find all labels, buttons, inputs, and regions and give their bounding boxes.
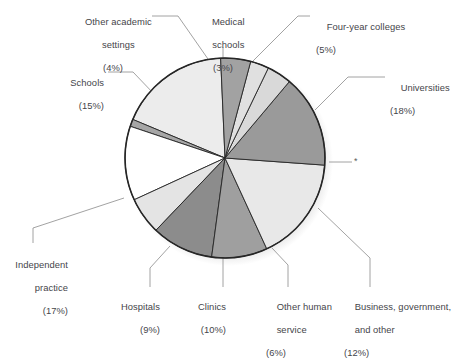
pie-label-four-year-colleges: Four-year colleges (5%)	[316, 10, 446, 78]
pie-label-business-government-other-line2: and other	[355, 324, 395, 335]
pie-label-other-academic-settings-line2: settings	[102, 39, 135, 50]
pie-label-clinics-line1: Clinics	[198, 301, 226, 312]
pie-label-independent-practice-line1: Independent	[15, 259, 68, 270]
pie-label-other-academic-settings-line1: Other academic	[85, 16, 152, 27]
pie-label-hospitals: Hospitals (9%)	[104, 290, 160, 358]
pie-label-schools: Schools (15%)	[24, 66, 104, 134]
pie-label-medical-schools-pct: (3%)	[185, 62, 261, 73]
pie-label-independent-practice-line2: practice	[35, 282, 68, 293]
pie-label-schools-line1: Schools	[70, 77, 104, 88]
pie-label-other-human-service-line1: Other human	[277, 301, 332, 312]
leader-line-business-government-other	[318, 208, 370, 287]
pie-label-four-year-colleges-line1: Four-year colleges	[327, 21, 406, 32]
pie-label-other-human-service: Other human service (6%)	[266, 290, 340, 362]
leader-line-hospitals	[150, 246, 170, 287]
pie-label-clinics-pct: (10%)	[178, 324, 226, 335]
pie-label-universities: Universities (18%)	[390, 71, 448, 139]
pie-label-hospitals-line1: Hospitals	[121, 301, 160, 312]
pie-label-schools-pct: (15%)	[24, 100, 104, 111]
pie-label-clinics: Clinics (10%)	[178, 290, 226, 358]
leader-line-independent-practice	[33, 198, 124, 243]
pie-label-independent-practice-pct: (17%)	[2, 305, 68, 316]
pie-label-medical-schools-line1: Medical	[212, 16, 245, 27]
pie-label-universities-line1: Universities	[401, 82, 450, 93]
pie-label-business-government-other-pct: (12%)	[344, 347, 450, 358]
leader-line-universities	[315, 77, 385, 110]
pie-label-other-human-service-line2: service	[277, 324, 307, 335]
pie-label-universities-pct: (18%)	[390, 105, 448, 116]
pie-label-other-human-service-pct: (6%)	[266, 347, 340, 358]
pie-label-independent-practice: Independent practice (17%)	[2, 248, 68, 339]
asterisk-marker: *	[354, 157, 358, 166]
pie-label-four-year-colleges-pct: (5%)	[316, 44, 446, 55]
pie-label-hospitals-pct: (9%)	[104, 324, 160, 335]
pie-label-medical-schools: Medical schools (3%)	[185, 5, 261, 96]
pie-label-business-government-other: Business, government, and other (12%)	[344, 290, 450, 362]
pie-label-medical-schools-line2: schools	[212, 39, 244, 50]
pie-label-business-government-other-line1: Business, government,	[355, 301, 451, 312]
